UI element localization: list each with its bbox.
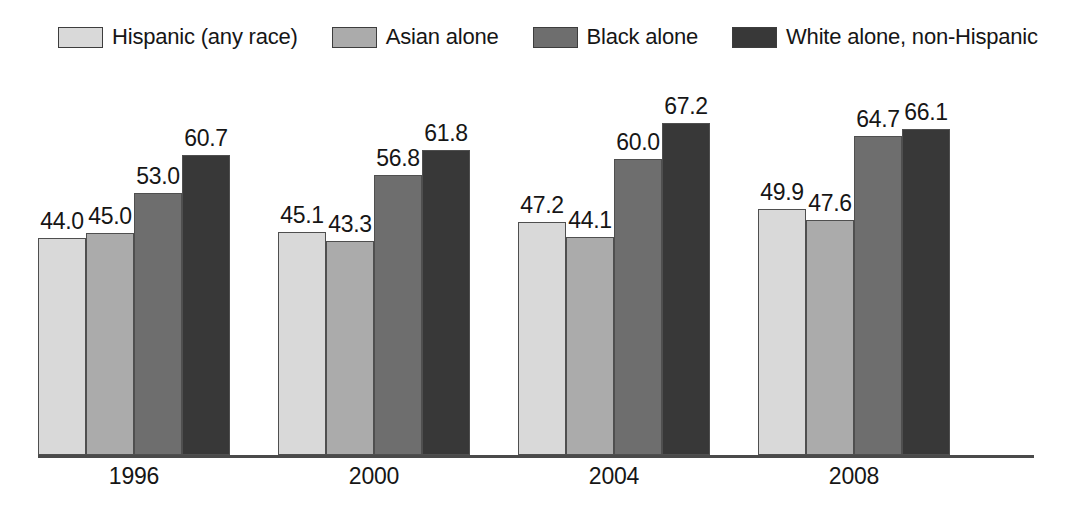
bar-column: 44.0	[38, 70, 86, 455]
legend-swatch-icon	[58, 27, 103, 48]
bar[interactable]	[134, 193, 182, 455]
bar-column: 43.3	[326, 70, 374, 455]
bar[interactable]	[374, 175, 422, 455]
x-axis-tick-label: 2004	[589, 462, 639, 490]
bar[interactable]	[278, 232, 326, 455]
bar-column: 66.1	[902, 70, 950, 455]
bar-column: 49.9	[758, 70, 806, 455]
bar-value-label: 44.0	[40, 210, 84, 233]
bar[interactable]	[614, 159, 662, 455]
bar-groups: 44.045.053.060.745.143.356.861.847.244.1…	[38, 70, 1034, 455]
bar-value-label: 45.0	[88, 205, 132, 228]
bar-value-label: 47.6	[808, 192, 852, 215]
x-axis-tick-label: 2000	[349, 462, 399, 490]
bar-group-2004: 47.244.160.067.2	[518, 70, 710, 455]
bar-group-2008: 49.947.664.766.1	[758, 70, 950, 455]
bar[interactable]	[422, 150, 470, 455]
bar-column: 53.0	[134, 70, 182, 455]
bar-value-label: 60.7	[184, 127, 228, 150]
bar-value-label: 56.8	[376, 147, 420, 170]
bar-column: 56.8	[374, 70, 422, 455]
bar-value-label: 43.3	[328, 213, 372, 236]
bar[interactable]	[518, 222, 566, 455]
legend-swatch-icon	[533, 27, 578, 48]
x-axis-line	[38, 455, 1034, 458]
bar[interactable]	[182, 155, 230, 455]
bar-value-label: 45.1	[280, 204, 324, 227]
bar-value-label: 64.7	[856, 108, 900, 131]
bar-column: 45.0	[86, 70, 134, 455]
legend-item-label: Black alone	[587, 26, 699, 48]
bar-column: 45.1	[278, 70, 326, 455]
legend-swatch-icon	[732, 27, 777, 48]
plot-area: 44.045.053.060.745.143.356.861.847.244.1…	[38, 70, 1034, 458]
bar-value-label: 44.1	[568, 209, 612, 232]
legend-swatch-icon	[332, 27, 377, 48]
legend-item[interactable]: Hispanic (any race)	[58, 26, 298, 48]
x-axis-labels: 1996200020042008	[38, 462, 1034, 496]
legend-item[interactable]: Asian alone	[332, 26, 499, 48]
bar-group-1996: 44.045.053.060.7	[38, 70, 230, 455]
bar[interactable]	[566, 237, 614, 455]
bar-value-label: 67.2	[664, 95, 708, 118]
legend-item[interactable]: Black alone	[533, 26, 699, 48]
legend-item-label: Hispanic (any race)	[112, 26, 298, 48]
legend-item-label: Asian alone	[386, 26, 499, 48]
bar-value-label: 47.2	[520, 194, 564, 217]
bar-chart: Hispanic (any race)Asian aloneBlack alon…	[0, 0, 1075, 513]
x-axis-tick-label: 1996	[109, 462, 159, 490]
bar[interactable]	[758, 209, 806, 455]
bar-value-label: 49.9	[760, 181, 804, 204]
bar-column: 67.2	[662, 70, 710, 455]
bar-column: 64.7	[854, 70, 902, 455]
bar[interactable]	[806, 220, 854, 455]
bar-column: 44.1	[566, 70, 614, 455]
bar-group-2000: 45.143.356.861.8	[278, 70, 470, 455]
x-axis-tick-label: 2008	[829, 462, 879, 490]
bar[interactable]	[854, 136, 902, 455]
legend-item[interactable]: White alone, non-Hispanic	[732, 26, 1038, 48]
bar[interactable]	[662, 123, 710, 455]
bar-column: 47.6	[806, 70, 854, 455]
bar-column: 60.7	[182, 70, 230, 455]
bar[interactable]	[902, 129, 950, 455]
bar[interactable]	[38, 238, 86, 455]
bar-value-label: 61.8	[424, 122, 468, 145]
legend-item-label: White alone, non-Hispanic	[786, 26, 1038, 48]
chart-legend: Hispanic (any race)Asian aloneBlack alon…	[58, 20, 1048, 54]
bar-column: 47.2	[518, 70, 566, 455]
bar-column: 61.8	[422, 70, 470, 455]
bar-column: 60.0	[614, 70, 662, 455]
bar[interactable]	[86, 233, 134, 455]
bar-value-label: 53.0	[136, 165, 180, 188]
bar-value-label: 66.1	[904, 101, 948, 124]
bar-value-label: 60.0	[616, 131, 660, 154]
bar[interactable]	[326, 241, 374, 455]
